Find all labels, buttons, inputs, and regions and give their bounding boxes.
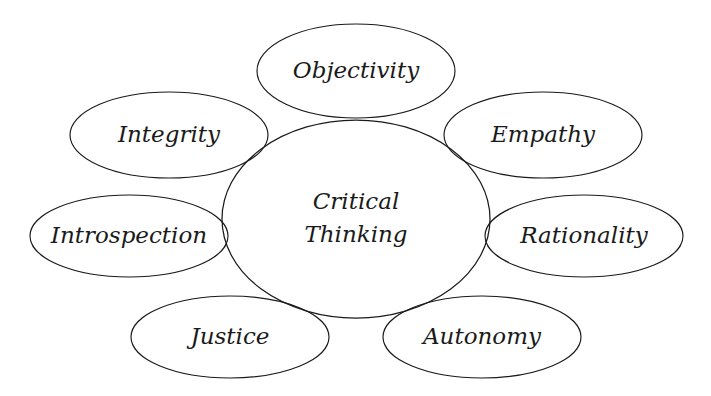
node-introspection-label: Introspection bbox=[50, 222, 207, 248]
node-empathy-label: Empathy bbox=[490, 121, 596, 147]
node-justice-label: Justice bbox=[187, 323, 270, 349]
node-introspection[interactable]: Introspection bbox=[30, 195, 228, 277]
node-critical-thinking-label-line2: Thinking bbox=[304, 221, 407, 247]
node-critical-thinking-ellipse[interactable] bbox=[222, 120, 490, 318]
node-critical-thinking-label-line1: Critical bbox=[313, 188, 400, 214]
node-objectivity[interactable]: Objectivity bbox=[257, 24, 455, 118]
node-integrity-label: Integrity bbox=[117, 121, 221, 147]
node-rationality-label: Rationality bbox=[519, 222, 648, 248]
node-rationality[interactable]: Rationality bbox=[485, 195, 683, 277]
node-objectivity-label: Objectivity bbox=[293, 57, 420, 83]
node-empathy[interactable]: Empathy bbox=[444, 92, 642, 178]
node-autonomy-label: Autonomy bbox=[421, 323, 542, 349]
critical-thinking-diagram: Objectivity Integrity Empathy Introspect… bbox=[0, 0, 711, 396]
node-integrity[interactable]: Integrity bbox=[70, 92, 268, 178]
node-critical-thinking[interactable]: Critical Thinking bbox=[222, 120, 490, 318]
diagram-canvas: Objectivity Integrity Empathy Introspect… bbox=[0, 0, 711, 396]
